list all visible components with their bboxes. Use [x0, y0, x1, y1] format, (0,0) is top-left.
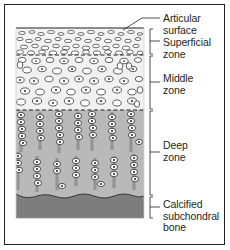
zone-brackets	[150, 29, 160, 218]
label-superficial-zone: Superficial zone	[163, 37, 211, 60]
figure-root: Articular surface Superficial zone Middl…	[0, 0, 230, 250]
label-middle-zone: Middle zone	[163, 73, 193, 96]
label-deep-zone: Deep zone	[163, 140, 188, 163]
label-articular-surface: Articular surface	[163, 13, 201, 36]
calcified-bone-bracket	[150, 197, 160, 218]
middle-zone-bracket	[150, 56, 160, 109]
calcified-bone-fill	[16, 194, 144, 218]
label-calcified-subchondral-bone: Calcified subchondral bone	[163, 199, 219, 234]
superficial-zone-bracket	[150, 29, 160, 54]
deep-zone-bracket	[150, 111, 160, 195]
